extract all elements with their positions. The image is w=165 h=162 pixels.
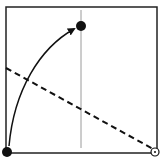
pivot-center-icon xyxy=(154,151,156,153)
target-point-icon xyxy=(76,21,86,31)
fold-diagram xyxy=(0,0,165,162)
moving-corner-point-icon xyxy=(2,147,12,157)
